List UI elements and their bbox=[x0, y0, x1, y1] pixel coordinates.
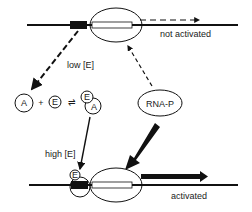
equilibrium-equation: A + E ⇌ A E bbox=[15, 91, 101, 114]
top-gene-band bbox=[92, 22, 132, 28]
high-e-arrow bbox=[80, 117, 90, 169]
plus-sign: + bbox=[38, 98, 43, 108]
equilibrium-symbol: ⇌ bbox=[68, 97, 76, 107]
top-gene: not activated bbox=[27, 8, 238, 42]
bottom-promoter-box bbox=[71, 181, 88, 189]
gene-activation-diagram: not activated low [E] A + E ⇌ A E high [… bbox=[0, 0, 252, 212]
rnap-binding-arrow bbox=[125, 123, 160, 170]
svg-text:E: E bbox=[72, 170, 78, 180]
low-e-label: low [E] bbox=[67, 60, 94, 70]
svg-text:A: A bbox=[91, 102, 97, 112]
thick-transcription-arrow bbox=[141, 171, 208, 182]
bottom-gene: E activated bbox=[29, 168, 238, 202]
top-promoter-box bbox=[70, 21, 87, 29]
high-e-label: high [E] bbox=[45, 149, 76, 159]
not-activated-label: not activated bbox=[160, 29, 211, 39]
svg-text:E: E bbox=[52, 97, 58, 107]
svg-text:A: A bbox=[21, 98, 27, 108]
bottom-gene-band bbox=[92, 182, 132, 188]
svg-text:RNA-P: RNA-P bbox=[146, 99, 174, 109]
rnap-dashed-arrow bbox=[128, 46, 152, 86]
activated-label: activated bbox=[171, 191, 207, 201]
svg-text:E: E bbox=[84, 92, 90, 102]
